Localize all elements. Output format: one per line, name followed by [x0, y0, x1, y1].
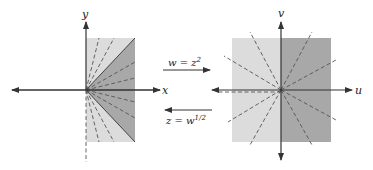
z-plane: y x: [12, 8, 169, 162]
inverse-map-label: z = w1/2: [165, 114, 206, 126]
w-plane: v u: [212, 7, 362, 160]
y-axis-label: y: [81, 8, 89, 21]
forward-map-label: w = z2: [168, 56, 202, 68]
mapping-arrows: w = z2 z = w1/2: [163, 56, 212, 126]
u-axis-label: u: [355, 84, 362, 97]
conformal-map-diagram: y x w = z2 z = w1/2 v u: [0, 0, 373, 170]
x-axis-label: x: [162, 84, 169, 97]
v-axis-label: v: [278, 7, 285, 20]
